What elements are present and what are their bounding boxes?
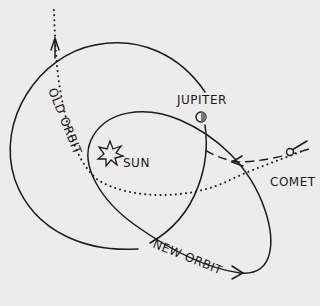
sun-icon xyxy=(98,141,123,166)
jupiter-planet-icon xyxy=(196,112,206,122)
sun-label: SUN xyxy=(123,156,150,170)
old-orbit-label: OLD ORBIT xyxy=(45,86,84,157)
old-orbit-arrow-icon xyxy=(51,38,59,58)
comet-tail xyxy=(292,141,307,150)
comet-orbit-diagram: JUPITER OLD ORBIT NEW ORBIT COMET SUN xyxy=(0,0,320,306)
new-orbit-label: NEW ORBIT xyxy=(151,237,225,278)
jupiter-label: JUPITER xyxy=(176,93,227,107)
comet-label: COMET xyxy=(270,175,316,189)
comet-icon xyxy=(287,149,294,156)
diagram-svg: JUPITER OLD ORBIT NEW ORBIT COMET SUN xyxy=(0,0,320,306)
jupiter-orbit-lower-right xyxy=(150,125,206,243)
